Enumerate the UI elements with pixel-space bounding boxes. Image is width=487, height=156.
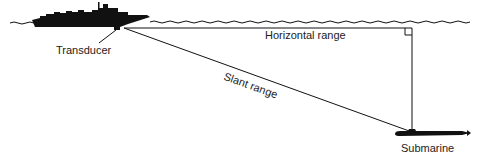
submarine-label: Submarine (401, 143, 454, 154)
ship-icon (32, 4, 150, 27)
transducer-icon (114, 26, 120, 30)
sonar-range-diagram: Transducer Horizontal range Slant range … (0, 0, 487, 156)
submarine-tail-icon (467, 130, 471, 136)
right-angle-marker (405, 28, 412, 35)
transducer-label: Transducer (56, 45, 111, 56)
horizontal-range-label: Horizontal range (265, 30, 346, 41)
slant-range-line (124, 28, 412, 132)
transducer-pointer (99, 30, 116, 43)
ship-mast-icon (98, 2, 100, 10)
